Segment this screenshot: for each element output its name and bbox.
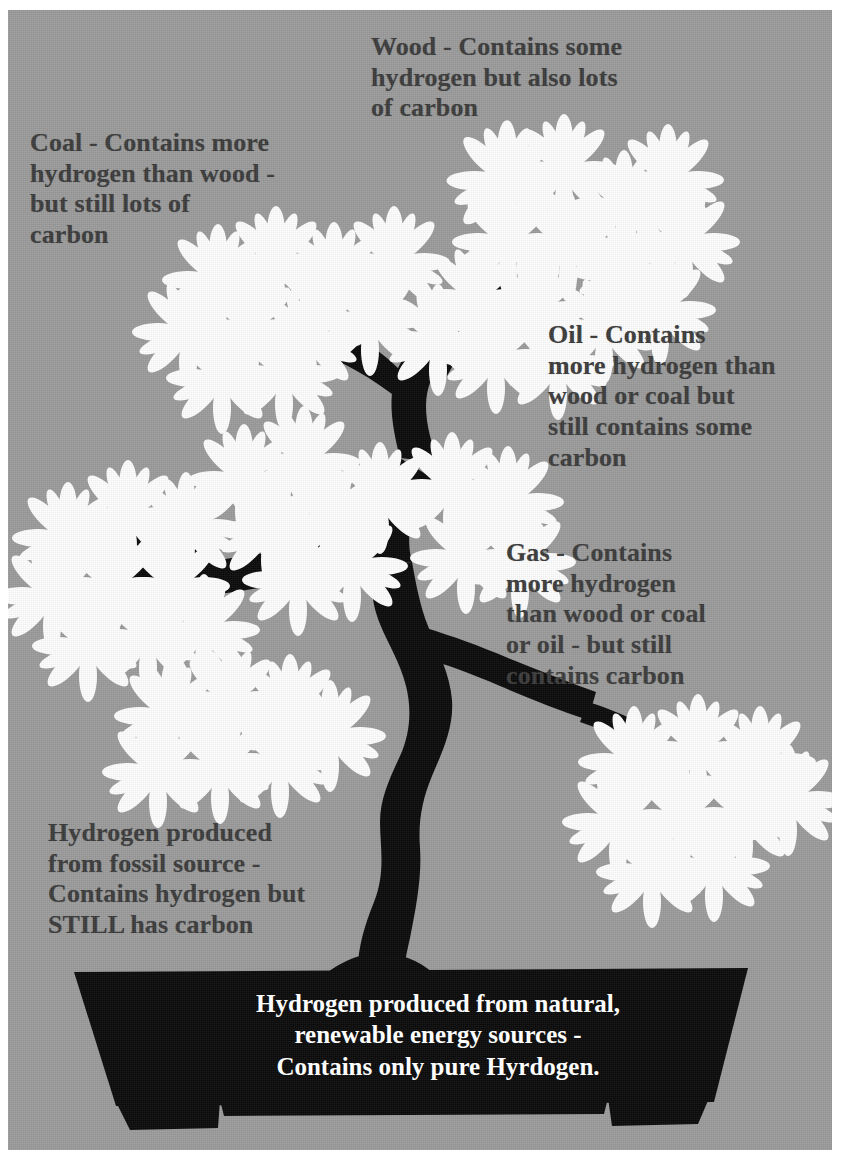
image-canvas: Wood - Contains some hydrogen but also l… (0, 0, 850, 1176)
gray-photo-panel: Wood - Contains some hydrogen but also l… (8, 10, 832, 1150)
fossil-hydrogen-annotation: Hydrogen produced from fossil source - C… (48, 818, 398, 941)
pot-caption: Hydrogen produced from natural, renewabl… (138, 988, 738, 1082)
coal-annotation: Coal - Contains more hydrogen than wood … (30, 128, 360, 251)
oil-annotation: Oil - Contains more hydrogen than wood o… (548, 320, 832, 473)
gas-annotation: Gas - Contains more hydrogen than wood o… (506, 538, 806, 691)
wood-annotation: Wood - Contains some hydrogen but also l… (371, 32, 691, 124)
